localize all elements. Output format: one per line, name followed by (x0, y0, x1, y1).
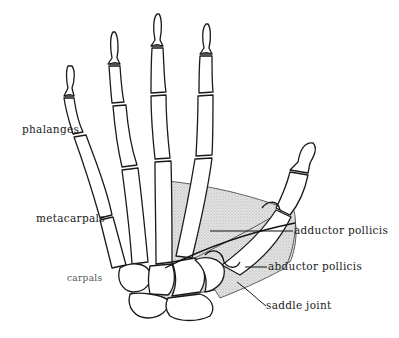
hand-anatomy-diagram: phalanges metacarpals carpals adductor p… (0, 0, 399, 338)
label-metacarpals: metacarpals (36, 212, 105, 224)
carpal-bones (119, 258, 225, 321)
label-phalanges: phalanges (22, 123, 79, 135)
label-abductor-pollicis: abductor pollicis (268, 260, 362, 272)
middle-finger-bones (151, 14, 172, 264)
label-adductor-pollicis: adductor pollicis (294, 224, 388, 236)
hand-skeleton-drawing (0, 0, 399, 338)
label-saddle-joint: saddle joint (266, 299, 332, 311)
saddle-joint-leader-line (237, 282, 266, 306)
joint-lines (65, 45, 212, 97)
label-carpals: carpals (67, 273, 102, 283)
